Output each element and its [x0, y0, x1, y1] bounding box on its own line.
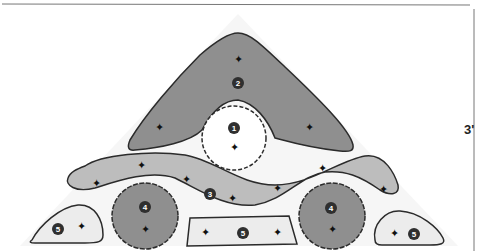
zone-badge-4-left: 4	[139, 201, 151, 213]
svg-text:✦: ✦	[273, 226, 282, 238]
zone-4-right-area	[299, 183, 365, 249]
zone-badge-5-right: 5	[408, 228, 420, 240]
svg-text:2: 2	[236, 79, 241, 88]
svg-text:5: 5	[241, 229, 246, 238]
svg-text:✦: ✦	[77, 220, 86, 232]
svg-text:4: 4	[143, 203, 148, 212]
svg-text:✦: ✦	[228, 192, 237, 204]
svg-text:3: 3	[208, 190, 213, 199]
zone-badge-5-left: 5	[52, 223, 64, 235]
svg-text:✦: ✦	[318, 162, 327, 174]
svg-text:✦: ✦	[92, 177, 101, 189]
height-dimension-label: 3'	[464, 122, 474, 137]
svg-text:✦: ✦	[234, 53, 243, 65]
planting-diagram: ✦ ✦ ✦ ✦ ✦ ✦ ✦ ✦ ✦ ✦ ✦ ✦ ✦ ✦ ✦ ✦ ✦ 1 2 3 …	[0, 0, 491, 251]
zone-badge-2: 2	[232, 77, 244, 89]
svg-text:✦: ✦	[305, 121, 314, 133]
svg-text:✦: ✦	[230, 141, 239, 153]
svg-text:✦: ✦	[201, 226, 210, 238]
width-dimension-line	[2, 4, 470, 5]
svg-text:✦: ✦	[390, 227, 399, 239]
svg-text:✦: ✦	[141, 223, 150, 235]
svg-text:✦: ✦	[379, 183, 388, 195]
svg-text:5: 5	[412, 230, 417, 239]
svg-text:✦: ✦	[155, 121, 164, 133]
zone-5-right-area	[375, 211, 444, 245]
svg-text:✦: ✦	[137, 159, 146, 171]
svg-text:✦: ✦	[328, 223, 337, 235]
svg-text:✦: ✦	[273, 182, 282, 194]
zone-4-left-area	[112, 183, 178, 249]
svg-text:4: 4	[329, 204, 334, 213]
zone-badge-4-right: 4	[325, 202, 337, 214]
zone-1-area	[202, 106, 266, 170]
svg-text:1: 1	[232, 124, 237, 133]
zone-badge-1: 1	[228, 122, 240, 134]
zone-badge-5-center: 5	[237, 227, 249, 239]
svg-text:5: 5	[56, 225, 61, 234]
svg-text:✦: ✦	[182, 173, 191, 185]
zone-badge-3: 3	[204, 188, 216, 200]
